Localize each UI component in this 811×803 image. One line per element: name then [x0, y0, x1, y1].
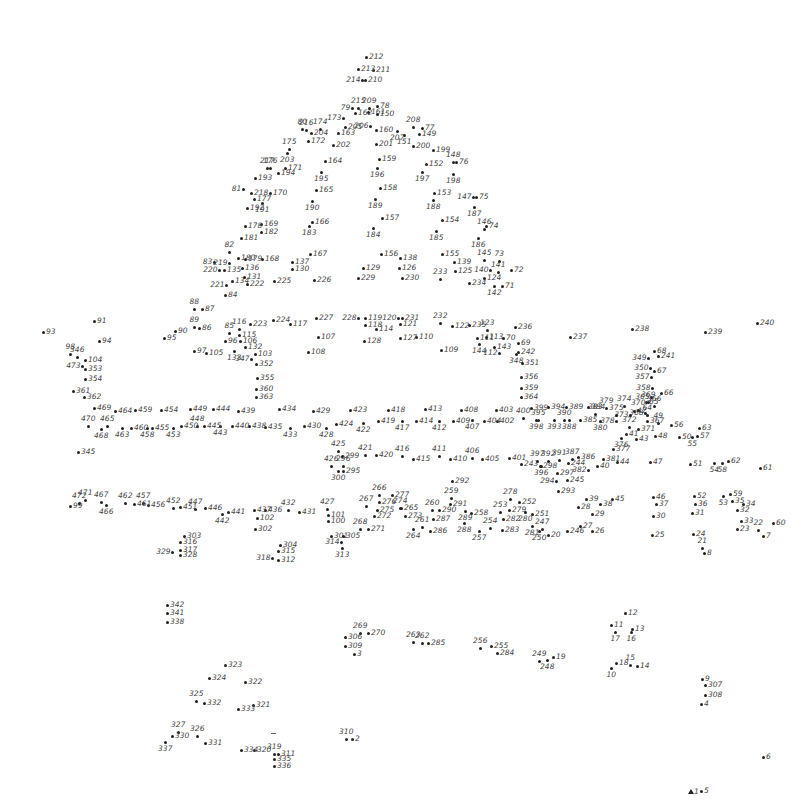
dot-point: [303, 425, 306, 428]
dot-number-label: 188: [426, 203, 440, 211]
dot-number-label: 405: [485, 455, 499, 463]
dot-point: [510, 269, 513, 272]
dot-point: [273, 753, 276, 756]
dot-number-label: 459: [138, 406, 152, 414]
dot-point: [415, 420, 418, 423]
dot-number-label: 41: [629, 430, 639, 438]
dot-number-label: 217: [260, 157, 274, 165]
dot-number-label: 239: [708, 328, 722, 336]
dot-point: [81, 365, 84, 368]
dot-point: [273, 765, 276, 768]
dot-point: [301, 128, 304, 131]
dot-number-label: 20: [551, 531, 561, 539]
dot-point: [311, 221, 314, 224]
dot-number-label: 439: [241, 407, 255, 415]
dot-point: [449, 503, 452, 506]
dot-number-label: 300: [331, 474, 345, 482]
dot-number-label: 232: [433, 312, 447, 320]
dot-point: [254, 353, 257, 356]
dot-point: [357, 277, 360, 280]
dot-number-label: 451: [183, 503, 197, 511]
dot-number-label: 21: [697, 537, 707, 545]
dot-point: [483, 420, 486, 423]
dot-point: [530, 407, 533, 410]
dot-number-label: 119: [368, 314, 382, 322]
dot-number-label: 180: [241, 254, 255, 262]
dot-point: [692, 533, 695, 536]
dot-number-label: 84: [228, 291, 238, 299]
dot-number-label: 394: [551, 403, 565, 411]
stray-mark: [271, 733, 276, 734]
dot-point: [224, 664, 227, 667]
dot-point: [78, 502, 81, 505]
dot-number-label: 364: [524, 393, 538, 401]
dot-number-label: 224: [276, 316, 290, 324]
dot-point: [481, 458, 484, 461]
dot-point: [736, 509, 739, 512]
dot-number-label: 241: [661, 352, 675, 360]
dot-point: [704, 684, 707, 687]
dot-number-label: 116: [232, 318, 246, 326]
dot-point: [84, 359, 87, 362]
dot-point: [367, 632, 370, 635]
dot-point: [287, 509, 290, 512]
dot-point: [342, 465, 345, 468]
dot-point: [42, 331, 45, 334]
dot-point: [93, 320, 96, 323]
dot-number-label: 173: [327, 114, 341, 122]
dot-number-label: 468: [94, 432, 108, 440]
dot-number-label: 418: [391, 406, 405, 414]
dot-point: [84, 368, 87, 371]
dot-number-label: 153: [437, 189, 451, 197]
dot-point: [364, 324, 367, 327]
dot-point: [277, 550, 280, 553]
dot-point: [772, 522, 775, 525]
dot-point: [579, 419, 582, 422]
dot-number-label: 461: [137, 500, 151, 508]
dot-number-label: 102: [260, 514, 274, 522]
dot-point: [309, 253, 312, 256]
dot-number-label: 374: [617, 395, 631, 403]
dot-point: [497, 271, 500, 274]
dot-number-label: 22: [753, 519, 763, 527]
dot-point: [615, 414, 618, 417]
dot-point: [205, 352, 208, 355]
dot-point: [558, 459, 561, 462]
dot-number-label: 426: [324, 455, 338, 463]
dot-number-label: 323: [228, 661, 242, 669]
dot-number-label: 402: [500, 417, 514, 425]
dot-point: [313, 279, 316, 282]
dot-number-label: 6: [766, 753, 771, 761]
dot-number-label: 307: [708, 681, 722, 689]
dot-point: [242, 188, 245, 191]
dot-point: [351, 107, 354, 110]
dot-number-label: 282: [506, 515, 520, 523]
dot-point: [567, 462, 570, 465]
dot-point: [629, 664, 632, 667]
dot-point: [629, 414, 632, 417]
dot-number-label: 38: [603, 500, 613, 508]
dot-point: [612, 448, 615, 451]
dot-number-label: 7: [766, 532, 771, 540]
dot-number-label: 400: [516, 407, 530, 415]
dot-number-label: 17: [610, 635, 620, 643]
dot-number-label: 168: [265, 255, 279, 263]
dot-point: [171, 735, 174, 738]
dot-number-label: 294: [540, 477, 554, 485]
dot-number-label: 198: [446, 177, 460, 185]
dot-point: [253, 509, 256, 512]
dot-point: [689, 463, 692, 466]
dot-point: [399, 337, 402, 340]
dot-number-label: 109: [444, 346, 458, 354]
dot-point: [452, 161, 455, 164]
dot-number-label: 260: [425, 499, 439, 507]
dot-point: [421, 526, 424, 529]
dot-number-label: 101: [331, 511, 345, 519]
dot-number-label: 375: [609, 404, 623, 412]
dot-number-label: 56: [674, 421, 684, 429]
dot-number-label: 240: [760, 319, 774, 327]
dot-number-label: 334: [244, 746, 258, 754]
dot-point: [493, 346, 496, 349]
dot-number-label: 396: [534, 469, 548, 477]
dot-number-label: 349: [632, 354, 646, 362]
